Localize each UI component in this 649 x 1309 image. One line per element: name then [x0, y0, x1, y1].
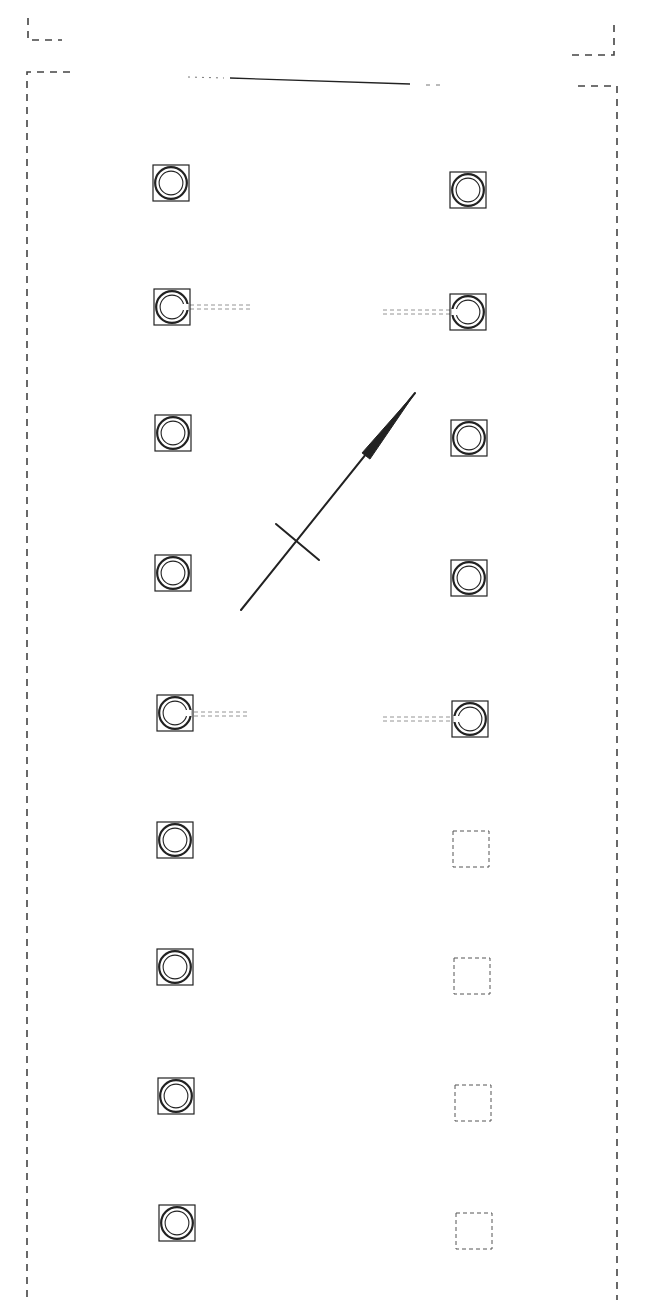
boundary-left [27, 72, 70, 1300]
boundary-corner-upper-right [572, 25, 614, 55]
column-grid [153, 165, 492, 1249]
boundary-right [578, 86, 617, 1300]
column [450, 172, 486, 208]
arrow-head [362, 393, 415, 459]
column [452, 701, 488, 737]
empty-column-position [453, 831, 489, 867]
column [158, 1078, 194, 1114]
empty-column-position [456, 1213, 492, 1249]
arrow-cross-bar [276, 524, 319, 560]
top-edge-line [230, 78, 410, 84]
column [155, 415, 191, 451]
column [451, 420, 487, 456]
boundary-lines [27, 18, 617, 1300]
tie-beams [190, 305, 452, 721]
boundary-corner-upper-left [28, 18, 62, 40]
column [153, 165, 189, 201]
column [157, 822, 193, 858]
column [155, 555, 191, 591]
top-edge-dots-left [188, 77, 224, 78]
empty-column-position [454, 958, 490, 994]
column [157, 695, 193, 731]
column [159, 1205, 195, 1241]
column [154, 289, 190, 325]
column [157, 949, 193, 985]
empty-column-position [455, 1085, 491, 1121]
column [450, 294, 486, 330]
structural-plan-diagram [0, 0, 649, 1309]
north-arrow-icon [241, 393, 415, 610]
column [451, 560, 487, 596]
